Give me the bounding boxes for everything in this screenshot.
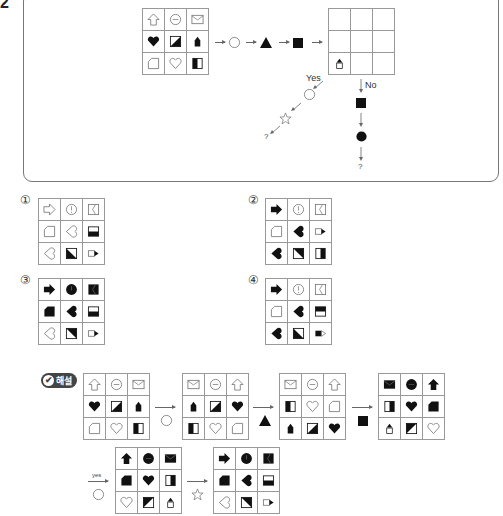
note-outline-icon (231, 422, 244, 435)
bracket-outline-icon (314, 283, 327, 296)
grid-cell (61, 323, 83, 345)
face-filled-icon (142, 452, 155, 465)
no-arrow (358, 79, 364, 93)
diag-half-tr-icon (65, 327, 78, 340)
grid-cell (329, 9, 351, 31)
option-4-label[interactable]: ④ (248, 273, 259, 287)
note-filled-icon (427, 400, 440, 413)
bracket-outline-icon (314, 203, 327, 216)
grid-cell (160, 492, 182, 514)
solution-arrow (88, 481, 108, 482)
grid-cell (302, 374, 324, 396)
grid-cell (310, 301, 332, 323)
heart-left-filled-icon (65, 305, 78, 318)
diag-half-bl-icon (292, 327, 305, 340)
pencil-filled-icon (132, 400, 145, 413)
heart-left-outline-icon (43, 247, 56, 260)
yes-arrow (269, 125, 281, 135)
question-frame (23, 0, 499, 182)
grid-cell (83, 199, 105, 221)
grid-cell (205, 418, 227, 440)
grid-cell (61, 279, 83, 301)
flow-arrow (312, 42, 322, 43)
grid-cell (324, 374, 346, 396)
heart-filled-icon (328, 422, 341, 435)
grid-cell (128, 418, 150, 440)
half-left-filled-icon (284, 400, 297, 413)
note-outline-icon (270, 225, 283, 238)
heart-outline-icon (120, 496, 133, 509)
option-4-grid[interactable] (265, 278, 332, 345)
heart-filled-icon (142, 474, 155, 487)
grid-cell (288, 301, 310, 323)
envelope-filled-icon (383, 378, 396, 391)
envelope-outline-icon (284, 378, 297, 391)
grid-cell (183, 374, 205, 396)
grid-cell (310, 323, 332, 345)
half-bottom-filled-icon (87, 225, 100, 238)
pencil-filled-icon (284, 422, 297, 435)
option-2-label[interactable]: ② (248, 193, 259, 207)
grid-cell (106, 374, 128, 396)
pencil-right-outline-icon (314, 225, 327, 238)
envelope-filled-icon (164, 452, 177, 465)
option-1-grid[interactable] (38, 198, 105, 265)
grid-cell (187, 53, 209, 75)
arrow-up-outline-icon (147, 13, 160, 26)
heart-outline-icon (427, 422, 440, 435)
no-arrow (358, 113, 364, 127)
diag-half-br-icon (306, 422, 319, 435)
clock-outline-icon (292, 283, 305, 296)
flow-arrow (246, 42, 256, 43)
face-outline-icon (306, 378, 319, 391)
solution-triangle-icon (258, 413, 272, 431)
grid-cell (138, 492, 160, 514)
arrow-up-outline-icon (231, 378, 244, 391)
arrow-up-outline-icon (88, 378, 101, 391)
grid-cell (310, 199, 332, 221)
grid-cell (116, 492, 138, 514)
option-2-grid[interactable] (265, 198, 332, 265)
grid-cell (116, 470, 138, 492)
option-1-label[interactable]: ① (20, 193, 31, 207)
grid-cell (266, 243, 288, 265)
solution-badge: ✔ 해설 (41, 373, 77, 388)
solution-star-icon (191, 487, 204, 505)
grid-cell (39, 323, 61, 345)
grid-cell (373, 31, 395, 53)
circle-operator-icon (228, 35, 241, 53)
solution-yes-label: yes (92, 472, 101, 478)
arrow-right-filled-icon (270, 283, 283, 296)
diag-half-tl-icon (405, 422, 418, 435)
grid-cell (165, 9, 187, 31)
note-filled-icon (120, 474, 133, 487)
grid-cell (84, 418, 106, 440)
arrow-up-filled-icon (120, 452, 133, 465)
grid-cell (205, 374, 227, 396)
grid-cell (214, 492, 236, 514)
grid-cell (324, 396, 346, 418)
note-outline-icon (43, 225, 56, 238)
pencil-right-outline-icon (87, 247, 100, 260)
flow-arrow (215, 42, 225, 43)
face-outline-icon (169, 13, 182, 26)
grid-cell (84, 396, 106, 418)
envelope-outline-icon (132, 378, 145, 391)
grid-cell (288, 323, 310, 345)
grid-cell (39, 279, 61, 301)
grid-cell (39, 199, 61, 221)
option-3-grid[interactable] (38, 278, 105, 345)
grid-cell (183, 418, 205, 440)
half-left-filled-icon (187, 422, 200, 435)
grid-cell (83, 243, 105, 265)
option-3-label[interactable]: ③ (20, 273, 31, 287)
pencil-filled-icon (187, 400, 200, 413)
arrow-right-filled-icon (218, 452, 231, 465)
heart-left-outline-icon (65, 225, 78, 238)
clock-filled-icon (240, 452, 253, 465)
grid-cell (138, 448, 160, 470)
grid-cell (288, 199, 310, 221)
grid-cell (84, 374, 106, 396)
half-left-filled-icon (132, 422, 145, 435)
solution-badge-label: 해설 (56, 374, 72, 387)
